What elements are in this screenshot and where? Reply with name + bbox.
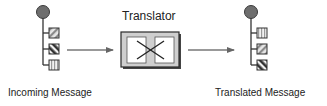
dark-diagonal-part-icon [257,60,267,70]
message-root-icon [37,6,50,19]
translated-message-icon [245,6,268,71]
incoming-message-icon [37,6,60,71]
message-translator-diagram: Translator Incoming Message Translated M… [0,0,327,106]
translator-label: Translator [122,9,176,23]
incoming-message-label: Incoming Message [8,87,92,98]
light-diagonal-part-icon [49,28,59,38]
light-diagonal-part-icon [257,44,267,54]
dark-diagonal-part-icon [49,44,59,54]
vertical-stripes-part-icon [257,28,267,38]
message-root-icon [245,6,258,19]
translator-box-icon [121,32,181,69]
vertical-stripes-part-icon [49,60,59,70]
translated-message-label: Translated Message [215,87,305,98]
